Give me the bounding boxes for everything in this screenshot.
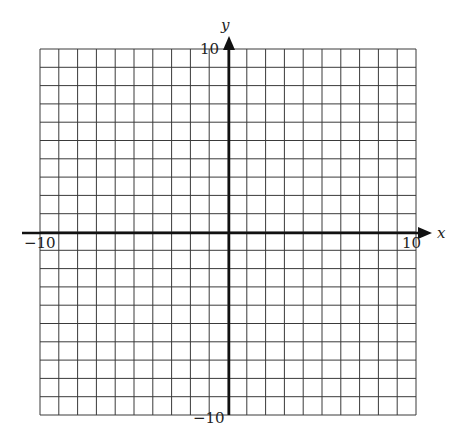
y-axis-arrow-icon xyxy=(223,36,235,50)
y-axis xyxy=(223,36,235,415)
x-axis-label: x xyxy=(437,224,446,242)
x-max-tick-label: 10 xyxy=(402,234,421,252)
x-axis xyxy=(22,227,432,239)
y-max-tick-label: 10 xyxy=(200,40,219,58)
coordinate-plane: x y −10 10 10 −10 xyxy=(0,0,460,446)
y-min-tick-label: −10 xyxy=(193,409,225,427)
y-axis-label: y xyxy=(220,16,230,34)
x-min-tick-label: −10 xyxy=(24,234,56,252)
